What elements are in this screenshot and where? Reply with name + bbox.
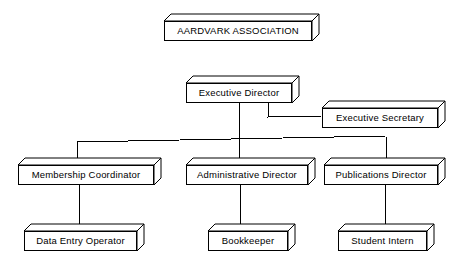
node-administrative-director[interactable]: Administrative Director: [186, 158, 317, 187]
node-student-intern[interactable]: Student Intern: [338, 224, 436, 253]
box-top-face: [18, 158, 161, 165]
node-label-membership-coordinator: Membership Coordinator: [18, 165, 154, 185]
node-label-executive-secretary: Executive Secretary: [322, 108, 438, 128]
node-publications-director[interactable]: Publications Director: [324, 158, 447, 187]
node-label-data-entry-operator: Data Entry Operator: [24, 231, 137, 251]
node-label-student-intern: Student Intern: [338, 231, 427, 251]
node-label-bookkeeper: Bookkeeper: [208, 231, 288, 251]
node-bookkeeper[interactable]: Bookkeeper: [208, 224, 297, 253]
connector-bus-line: [77, 136, 386, 142]
box-top-face: [164, 14, 319, 21]
box-top-face: [338, 224, 434, 231]
box-top-face: [186, 158, 315, 165]
box-top-face: [322, 101, 445, 108]
node-executive-secretary[interactable]: Executive Secretary: [322, 101, 447, 130]
box-top-face: [208, 224, 295, 231]
node-label-executive-director: Executive Director: [186, 83, 292, 103]
node-data-entry-operator[interactable]: Data Entry Operator: [24, 224, 146, 253]
box-top-face: [324, 158, 445, 165]
box-top-face: [24, 224, 144, 231]
node-aardvark-association[interactable]: AARDVARK ASSOCIATION: [164, 14, 321, 43]
node-membership-coordinator[interactable]: Membership Coordinator: [18, 158, 163, 187]
org-chart: AARDVARK ASSOCIATIONExecutive DirectorEx…: [0, 0, 467, 269]
node-executive-director[interactable]: Executive Director: [186, 76, 301, 105]
node-label-publications-director: Publications Director: [324, 165, 438, 185]
node-label-administrative-director: Administrative Director: [186, 165, 308, 185]
node-label-aardvark-association: AARDVARK ASSOCIATION: [164, 21, 312, 41]
box-top-face: [186, 76, 299, 83]
